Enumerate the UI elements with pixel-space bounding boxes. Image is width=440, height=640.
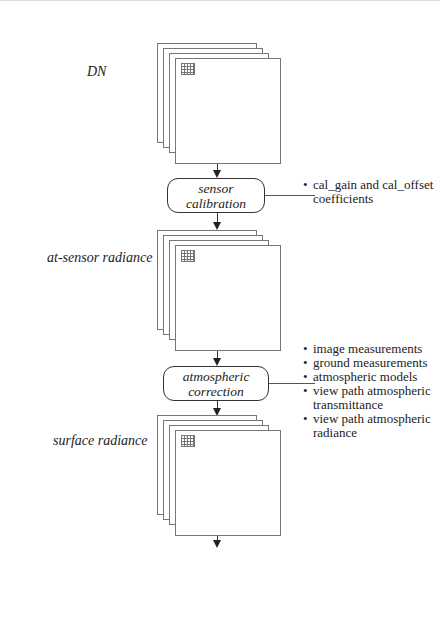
process-sensor-calibration: sensor calibration xyxy=(167,178,265,213)
inputs-atmospheric-correction: image measurements ground measurements a… xyxy=(303,342,438,440)
image-sheet xyxy=(175,58,281,164)
arrow-down-icon xyxy=(213,358,221,366)
image-stack-at-sensor-radiance xyxy=(157,230,281,354)
input-item: ground measurements xyxy=(303,356,438,370)
arrow-down-icon xyxy=(213,540,221,548)
process-label-line: sensor xyxy=(172,181,260,196)
pixel-grid-icon xyxy=(181,435,195,447)
image-sheet xyxy=(175,430,281,536)
image-stack-surface-radiance xyxy=(157,415,281,539)
inputs-sensor-calibration: cal_gain and cal_offset coefficients xyxy=(303,178,438,206)
input-item: image measurements xyxy=(303,342,438,356)
top-border xyxy=(0,0,440,1)
pixel-grid-icon xyxy=(181,63,195,75)
stage-label-surface-radiance: surface radiance xyxy=(53,433,147,449)
process-label-line: atmospheric xyxy=(168,369,264,384)
stage-label-at-sensor-radiance: at-sensor radiance xyxy=(47,250,152,266)
process-atmospheric-correction: atmospheric correction xyxy=(163,366,269,401)
input-item: atmospheric models xyxy=(303,370,438,384)
pixel-grid-icon xyxy=(181,250,195,262)
arrow-down-icon xyxy=(213,170,221,178)
input-item: cal_gain and cal_offset coefficients xyxy=(303,178,438,206)
process-label-line: calibration xyxy=(172,196,260,211)
input-item: view path atmospheric radiance xyxy=(303,412,438,440)
process-label-line: correction xyxy=(168,384,264,399)
image-stack-dn xyxy=(157,43,281,167)
arrow-down-icon xyxy=(213,222,221,230)
input-item: view path atmospheric transmittance xyxy=(303,384,438,412)
stage-label-dn: DN xyxy=(87,64,106,80)
image-sheet xyxy=(175,245,281,351)
